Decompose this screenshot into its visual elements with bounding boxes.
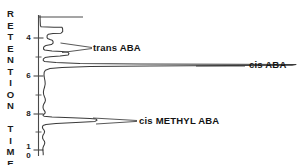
peak-label-trans-aba: trans ABA [93,42,141,53]
leader-line-cis-methyl-aba [93,118,137,121]
chromatogram-plot [0,0,306,165]
leader-line-trans-aba [61,43,93,48]
peak-label-cis-methyl-aba: cis METHYL ABA [139,115,219,126]
peak-label-cis-aba: cis ABA [249,59,286,70]
leader-line-trans-aba-secondary [62,49,92,53]
chromatogram-figure: RETENTION TIME (min) 4 6 8 10 trans ABA … [0,0,306,165]
chromatogram-trace [40,16,296,155]
leader-line-cis-methyl-aba-secondary [96,121,137,124]
